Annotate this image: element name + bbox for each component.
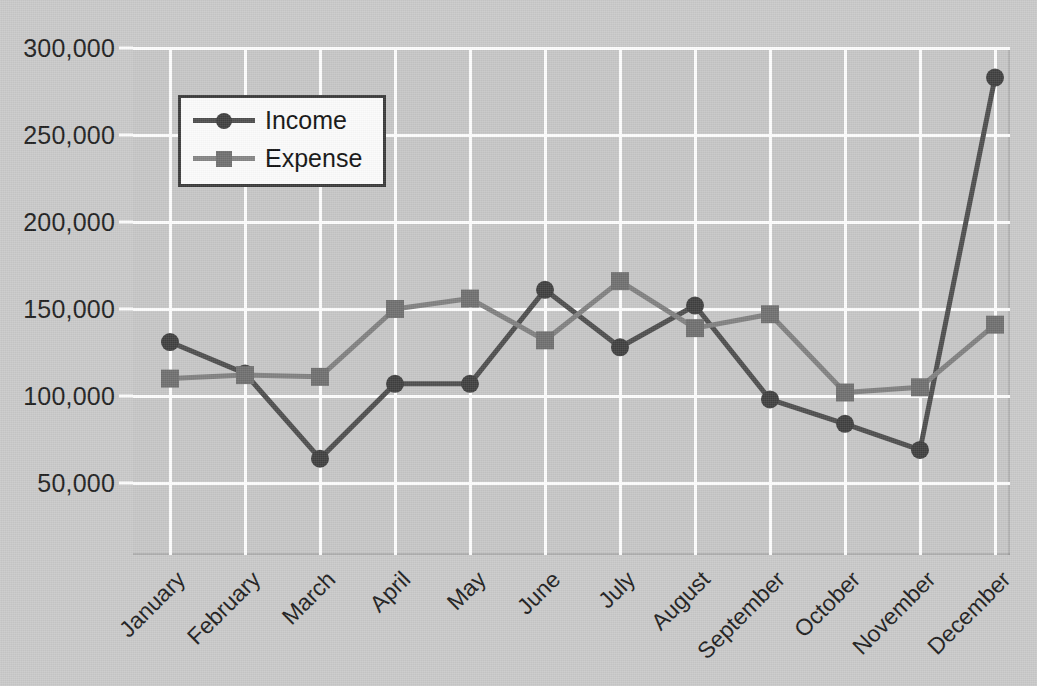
y-axis-tick-mark	[119, 395, 133, 398]
y-axis-tick-label: 50,000	[0, 469, 115, 498]
legend-item-expense[interactable]: Expense	[193, 142, 362, 174]
y-axis-tick-mark	[119, 482, 133, 485]
legend-swatch-expense	[193, 143, 255, 173]
y-axis-tick-mark	[119, 47, 133, 50]
y-axis-tick-label: 150,000	[0, 295, 115, 324]
legend-item-income[interactable]: Income	[193, 104, 347, 136]
legend-label-income: Income	[265, 108, 347, 133]
chart-legend[interactable]: Income Expense	[178, 95, 386, 187]
y-axis-tick-label: 200,000	[0, 208, 115, 237]
y-axis-tick-mark	[119, 221, 133, 224]
chart-figure: 300,000250,000200,000150,000100,00050,00…	[0, 0, 1037, 686]
legend-swatch-income	[193, 105, 255, 135]
y-axis-tick-label: 250,000	[0, 121, 115, 150]
y-axis-tick-mark	[119, 134, 133, 137]
y-axis-tick-label: 100,000	[0, 382, 115, 411]
legend-label-expense: Expense	[265, 146, 362, 171]
y-axis-tick-label: 300,000	[0, 34, 115, 63]
y-axis-tick-mark	[119, 308, 133, 311]
